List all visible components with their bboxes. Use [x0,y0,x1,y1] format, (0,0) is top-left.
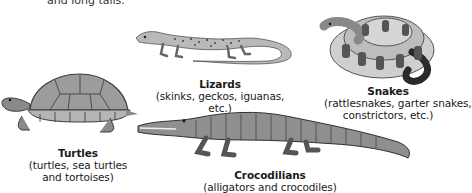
caption-turtles: Turtles (turtles, sea turtles and tortoi… [18,147,138,183]
turtles-title: Turtles [18,147,138,159]
coiled-snake-illustration [322,2,444,84]
crocodilians-examples: (alligators and crocodiles) [185,181,355,193]
caption-crocodilians: Crocodilians (alligators and crocodiles) [185,169,355,193]
lizard-illustration [133,24,313,66]
snakes-title: Snakes [328,85,448,97]
lizards-title: Lizards [145,78,295,90]
intro-partial-text: and long tails. [47,0,125,7]
crocodile-illustration [136,110,418,162]
turtles-examples-line2: and tortoises) [18,171,138,183]
snakes-examples-line1: (rattlesnakes, garter snakes, [324,97,448,109]
caption-lizards: Lizards (skinks, geckos, iguanas, etc.) [145,78,295,114]
crocodilians-title: Crocodilians [185,169,355,181]
turtles-examples-line1: (turtles, sea turtles [18,159,138,171]
turtle-illustration [0,70,140,138]
